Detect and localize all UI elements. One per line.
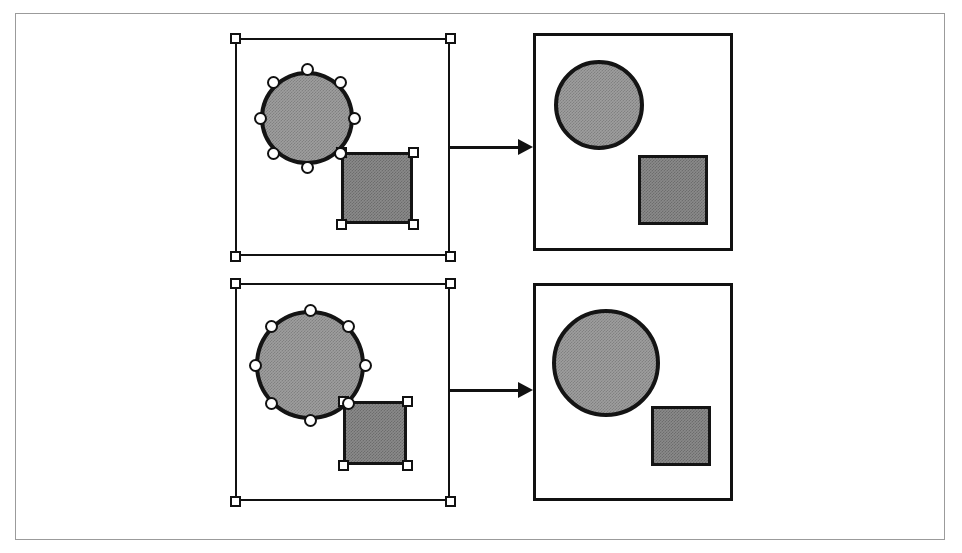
top-selection-handle-top-left[interactable] <box>230 33 241 44</box>
bottom-result-square-shape <box>651 406 711 466</box>
bottom-selection-handle-top-left[interactable] <box>230 278 241 289</box>
bottom-source-circle-handle-w[interactable] <box>249 359 262 372</box>
figure-root <box>0 0 962 553</box>
bottom-source-square-handle-bottom-left[interactable] <box>338 460 349 471</box>
bottom-source-circle-handle-ne[interactable] <box>342 320 355 333</box>
top-source-circle-handle-e[interactable] <box>348 112 361 125</box>
top-selection-handle-top-right[interactable] <box>445 33 456 44</box>
bottom-source-circle-handle-e[interactable] <box>359 359 372 372</box>
top-source-square-shape[interactable] <box>341 152 413 224</box>
bottom-selection-handle-bottom-left[interactable] <box>230 496 241 507</box>
top-source-circle-handle-sw[interactable] <box>267 147 280 160</box>
top-transform-arrow <box>450 137 533 157</box>
bottom-source-square-handle-top-right[interactable] <box>402 396 413 407</box>
bottom-selection-handle-top-right[interactable] <box>445 278 456 289</box>
bottom-source-circle-handle-s[interactable] <box>304 414 317 427</box>
bottom-source-square-handle-bottom-right[interactable] <box>402 460 413 471</box>
top-source-circle-handle-w[interactable] <box>254 112 267 125</box>
top-selection-handle-bottom-left[interactable] <box>230 251 241 262</box>
bottom-source-circle-handle-sw[interactable] <box>265 397 278 410</box>
top-result-square-shape <box>638 155 708 225</box>
top-arrow-shaft <box>450 146 518 149</box>
bottom-arrow-shaft <box>450 389 518 392</box>
bottom-selection-handle-bottom-right[interactable] <box>445 496 456 507</box>
top-source-square-handle-top-right[interactable] <box>408 147 419 158</box>
top-source-square-handle-bottom-left[interactable] <box>336 219 347 230</box>
top-result-circle-shape <box>554 60 644 150</box>
top-arrow-head <box>518 139 533 155</box>
bottom-source-circle-handle-nw[interactable] <box>265 320 278 333</box>
bottom-source-circle-handle-n[interactable] <box>304 304 317 317</box>
top-source-circle-handle-s[interactable] <box>301 161 314 174</box>
figure-outer-frame <box>15 13 945 540</box>
top-selection-handle-bottom-right[interactable] <box>445 251 456 262</box>
bottom-source-square-shape[interactable] <box>343 401 407 465</box>
bottom-transform-arrow <box>450 380 533 400</box>
top-source-circle-handle-n[interactable] <box>301 63 314 76</box>
bottom-arrow-head <box>518 382 533 398</box>
top-source-circle-handle-se[interactable] <box>334 147 347 160</box>
top-source-square-handle-bottom-right[interactable] <box>408 219 419 230</box>
bottom-result-circle-shape <box>552 309 660 417</box>
